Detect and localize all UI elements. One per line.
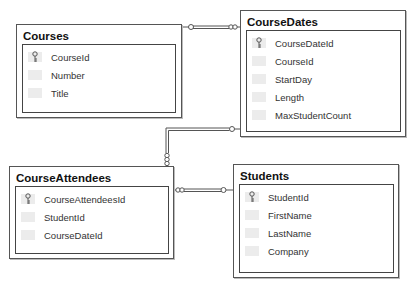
table-courses[interactable]: Courses CourseId Number Title [16, 24, 182, 118]
row-selector [21, 230, 35, 240]
column-name: CourseId [51, 52, 90, 63]
column-row[interactable]: Number [23, 66, 85, 84]
primary-key-icon [31, 51, 39, 63]
row-selector [245, 210, 259, 220]
row-selector [252, 92, 266, 102]
column-name: Number [51, 70, 85, 81]
primary-key-icon [248, 191, 256, 203]
row-selector [245, 246, 259, 256]
row-selector [28, 88, 42, 98]
column-name: Company [268, 246, 309, 257]
column-name: StudentId [268, 192, 309, 203]
column-name: CourseDateId [275, 38, 334, 49]
primary-key-icon [24, 193, 32, 205]
column-row[interactable]: CourseAttendeesId [16, 190, 125, 208]
table-coursedates[interactable]: CourseDates CourseDateId CourseId StartD… [240, 10, 406, 137]
primary-key-icon [255, 37, 263, 49]
column-row[interactable]: StudentId [240, 188, 309, 206]
column-row[interactable]: StudentId [16, 208, 85, 226]
column-row[interactable]: FirstName [240, 206, 312, 224]
row-selector [28, 52, 42, 62]
row-selector [252, 38, 266, 48]
column-row[interactable]: CourseDateId [16, 226, 103, 244]
column-row[interactable]: Company [240, 242, 309, 260]
column-row[interactable]: CourseDateId [247, 34, 334, 52]
column-row[interactable]: MaxStudentCount [247, 106, 351, 124]
column-row[interactable]: CourseId [247, 52, 314, 70]
column-name: Length [275, 92, 304, 103]
row-selector [28, 70, 42, 80]
row-selector [245, 192, 259, 202]
column-name: FirstName [268, 210, 312, 221]
relationship-students-courseattendees [173, 188, 233, 193]
column-list: CourseId Number Title [22, 44, 176, 113]
column-name: LastName [268, 228, 311, 239]
table-title: CourseAttendees [16, 172, 111, 184]
table-students[interactable]: Students StudentId FirstName LastName Co… [233, 164, 399, 278]
column-row[interactable]: Length [247, 88, 304, 106]
row-selector [245, 228, 259, 238]
column-name: CourseAttendeesId [44, 194, 125, 205]
relationship-coursedates-courseattendees [165, 127, 240, 166]
column-row[interactable]: LastName [240, 224, 311, 242]
row-selector [252, 56, 266, 66]
column-name: StartDay [275, 74, 312, 85]
column-list: CourseDateId CourseId StartDay Length Ma… [246, 30, 401, 132]
column-name: StudentId [44, 212, 85, 223]
table-courseattendees[interactable]: CourseAttendees CourseAttendeesId Studen… [9, 166, 174, 259]
column-name: CourseId [275, 56, 314, 67]
column-name: Title [51, 88, 69, 99]
row-selector [21, 194, 35, 204]
column-list: CourseAttendeesId StudentId CourseDateId [15, 186, 169, 254]
row-selector [252, 110, 266, 120]
column-list: StudentId FirstName LastName Company [239, 184, 394, 273]
relationship-courses-coursedates [181, 25, 240, 30]
row-selector [21, 212, 35, 222]
table-title: Courses [23, 30, 69, 42]
row-selector [252, 74, 266, 84]
table-title: Students [240, 170, 289, 182]
column-row[interactable]: CourseId [23, 48, 90, 66]
column-row[interactable]: Title [23, 84, 69, 102]
column-name: MaxStudentCount [275, 110, 351, 121]
column-row[interactable]: StartDay [247, 70, 312, 88]
table-title: CourseDates [247, 16, 318, 28]
column-name: CourseDateId [44, 230, 103, 241]
